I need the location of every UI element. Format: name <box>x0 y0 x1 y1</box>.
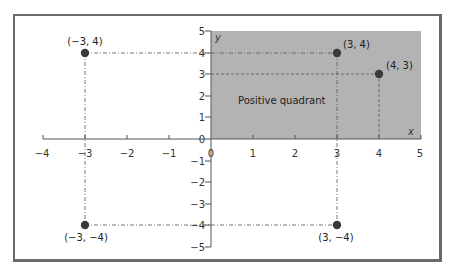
y-tick-label: −4 <box>190 220 205 231</box>
x-tick-label: 1 <box>250 148 256 159</box>
y-tick-label: 0 <box>199 134 205 145</box>
y-tick-label: −2 <box>190 177 205 188</box>
x-tick-label: −2 <box>120 148 135 159</box>
y-tick-label: 4 <box>199 48 205 59</box>
y-tick-label: 1 <box>199 112 205 123</box>
x-tick-label: −4 <box>35 148 50 159</box>
point-label: (−3, 4) <box>67 36 102 47</box>
point-3-neg4 <box>333 221 341 229</box>
y-tick-label: 2 <box>199 91 205 102</box>
y-tick-label: −5 <box>190 242 205 253</box>
point-neg3-4 <box>81 49 89 57</box>
point-label: (3, 4) <box>343 39 370 50</box>
x-tick-label: 3 <box>334 148 340 159</box>
x-tick-labels: −4 −3 −2 −1 0 1 2 3 4 5 <box>35 148 424 159</box>
y-axis-label: y <box>214 32 222 43</box>
y-tick-label: 3 <box>199 69 205 80</box>
point-label: (3, −4) <box>318 232 353 243</box>
point-4-3 <box>375 70 383 78</box>
coordinate-plane: −4 −3 −2 −1 0 1 2 3 4 5 5 4 3 2 1 0 −1 −… <box>0 0 456 275</box>
x-tick-label: −1 <box>162 148 177 159</box>
positive-quadrant-region <box>211 31 421 139</box>
y-tick-label: 5 <box>199 26 205 37</box>
x-tick-label: −3 <box>78 148 93 159</box>
x-tick-label: 4 <box>376 148 382 159</box>
x-tick-label: 2 <box>292 148 298 159</box>
point-label: (−3, −4) <box>64 232 108 243</box>
point-label: (4, 3) <box>386 60 413 71</box>
point-neg3-neg4 <box>81 221 89 229</box>
x-axis-label: x <box>407 126 414 137</box>
x-tick-label: 0 <box>208 148 214 159</box>
x-tick-label: 5 <box>417 148 423 159</box>
y-tick-label: −1 <box>190 156 205 167</box>
y-tick-label: −3 <box>190 199 205 210</box>
positive-quadrant-label: Positive quadrant <box>238 95 325 106</box>
point-3-4 <box>333 49 341 57</box>
